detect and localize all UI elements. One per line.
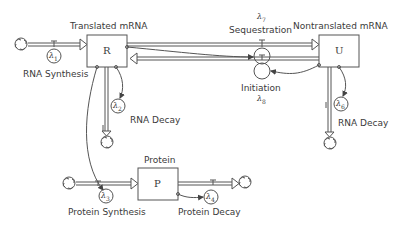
flow-pipe-protein-synthesis	[76, 182, 131, 185]
stock-symbol-u: U	[335, 46, 343, 56]
flow-label-protein-synthesis: Protein Synthesis	[68, 208, 146, 217]
flow-label-sequestration: Sequestration	[229, 26, 292, 35]
rate-label-lambda3: λ3	[101, 192, 110, 202]
rate-circle-lambda8	[254, 63, 270, 79]
cloud-icon-sink-rna-r	[101, 136, 113, 148]
cloud-icon-source-rna	[15, 38, 27, 50]
flow-arrowhead-rna-synthesis	[80, 39, 87, 50]
flow-pipe-rna-decay-u	[328, 67, 331, 134]
rate-label-lambda4: λ4	[206, 193, 215, 203]
flow-label-rna-decay-u: RNA Decay	[338, 119, 388, 128]
cloud-icon-sink-rna-u	[324, 137, 336, 149]
stock-title-nontranslated-mrna: Nontranslated mRNA	[293, 22, 388, 31]
flow-arrowhead-initiation	[130, 53, 137, 64]
stock-flow-diagram: Translated mRNA Nontranslated mRNA Prote…	[0, 0, 401, 229]
flow-label-rna-synthesis: RNA Synthesis	[23, 70, 88, 79]
stock-title-translated-mrna: Translated mRNA	[70, 22, 147, 31]
flow-pipe-protein-decay	[178, 182, 232, 185]
cloud-icon-sink-protein	[239, 176, 251, 188]
rate-label-lambda1: λ1	[49, 52, 58, 62]
rate-label-lambda8: λ8	[257, 95, 266, 105]
diagram-canvas	[0, 0, 401, 229]
stock-symbol-r: R	[103, 46, 111, 56]
stock-symbol-p: P	[154, 179, 161, 189]
cloud-icon-source-protein	[63, 177, 75, 189]
flow-pipe-initiation	[137, 57, 319, 60]
rate-label-lambda6: λ6	[336, 100, 345, 110]
flow-label-initiation: Initiation	[241, 84, 281, 93]
stock-title-protein: Protein	[144, 156, 176, 165]
rate-label-lambda2: λ2	[113, 102, 122, 112]
flow-label-protein-decay: Protein Decay	[178, 208, 241, 217]
flow-label-rna-decay-r: RNA Decay	[130, 116, 180, 125]
flow-pipe-rna-decay-r	[105, 67, 108, 133]
flow-arrowhead-sequestration	[312, 39, 319, 50]
rate-label-lambda7: λ7	[257, 13, 266, 23]
flow-pipe-sequestration	[127, 43, 312, 46]
